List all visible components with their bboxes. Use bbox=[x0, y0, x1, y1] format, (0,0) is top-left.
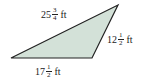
unit: ft bbox=[61, 10, 67, 20]
whole-number: 17 bbox=[35, 67, 45, 77]
fraction: 1 2 bbox=[46, 64, 52, 79]
whole-number: 25 bbox=[41, 10, 51, 20]
unit: ft bbox=[127, 35, 133, 45]
denominator: 2 bbox=[47, 72, 51, 79]
unit: ft bbox=[55, 67, 61, 77]
denominator: 4 bbox=[53, 15, 57, 22]
fraction: 1 2 bbox=[118, 32, 124, 47]
side-label-right: 12 1 2 ft bbox=[107, 32, 133, 47]
fraction: 3 4 bbox=[52, 7, 58, 22]
side-label-top: 25 3 4 ft bbox=[41, 7, 67, 22]
side-label-bottom: 17 1 2 ft bbox=[35, 64, 61, 79]
denominator: 2 bbox=[119, 40, 123, 47]
whole-number: 12 bbox=[107, 35, 117, 45]
